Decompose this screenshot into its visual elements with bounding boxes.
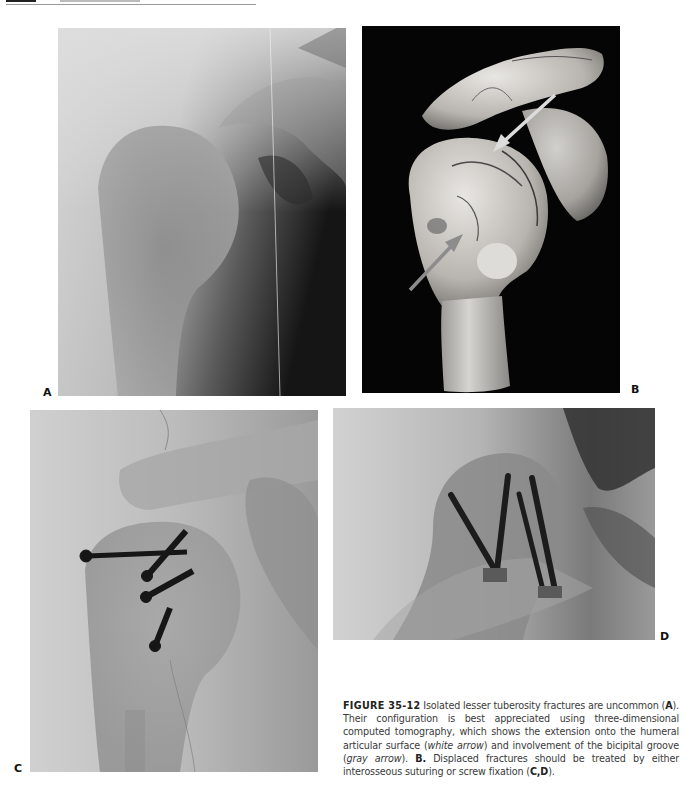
panel-label-b: B [631,383,639,396]
panel-b-3d-ct [362,26,620,393]
panel-a-radiograph [58,28,346,396]
page-number-stub [6,0,36,2]
radiograph-image [58,28,346,396]
panel-label-c: C [14,762,22,775]
radiograph-image [30,410,318,772]
figure-number: FIGURE 35-12 [343,700,420,711]
figure-caption: FIGURE 35-12 Isolated lesser tuberosity … [343,699,679,778]
panel-label-a: A [43,386,52,399]
panel-c-radiograph [30,410,318,772]
panel-d-radiograph [333,408,655,640]
ct-reconstruction-image [362,26,620,393]
header-rule [6,4,256,5]
radiograph-image [333,408,655,640]
panel-label-d: D [660,630,669,643]
running-head-stub [60,0,140,2]
